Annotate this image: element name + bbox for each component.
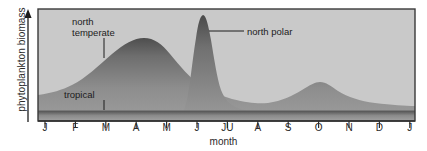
x-tick-label: J: [43, 122, 48, 133]
x-tick-label: O: [315, 122, 323, 133]
x-tick-label: A: [254, 122, 261, 133]
annotation-north-temperate-line1: north: [72, 16, 115, 27]
x-axis-tick-labels: J F M A M J JU A S O N D J: [0, 122, 427, 136]
x-tick-label: N: [345, 122, 352, 133]
x-tick-label: M: [162, 122, 170, 133]
x-tick-label: S: [285, 122, 292, 133]
annotation-north-temperate: north temperate: [72, 16, 115, 38]
x-tick-label: M: [102, 122, 110, 133]
annotation-north-temperate-line2: temperate: [72, 27, 115, 38]
y-axis-label: phytoplankton biomass: [16, 0, 27, 127]
x-tick-label: J: [407, 122, 412, 133]
x-axis-label-text: month: [210, 136, 238, 147]
x-tick-label: D: [376, 122, 383, 133]
x-tick-label: A: [133, 122, 140, 133]
chart-figure: phytoplankton biomass: [0, 0, 427, 151]
x-tick-label: J: [195, 122, 200, 133]
x-tick-label: F: [72, 122, 78, 133]
annotation-tropical: tropical: [64, 89, 95, 100]
x-axis-label: month: [0, 136, 427, 147]
series-area-tropical: [38, 111, 415, 121]
annotation-north-polar: north polar: [247, 26, 292, 37]
x-tick-label: JU: [221, 122, 233, 133]
